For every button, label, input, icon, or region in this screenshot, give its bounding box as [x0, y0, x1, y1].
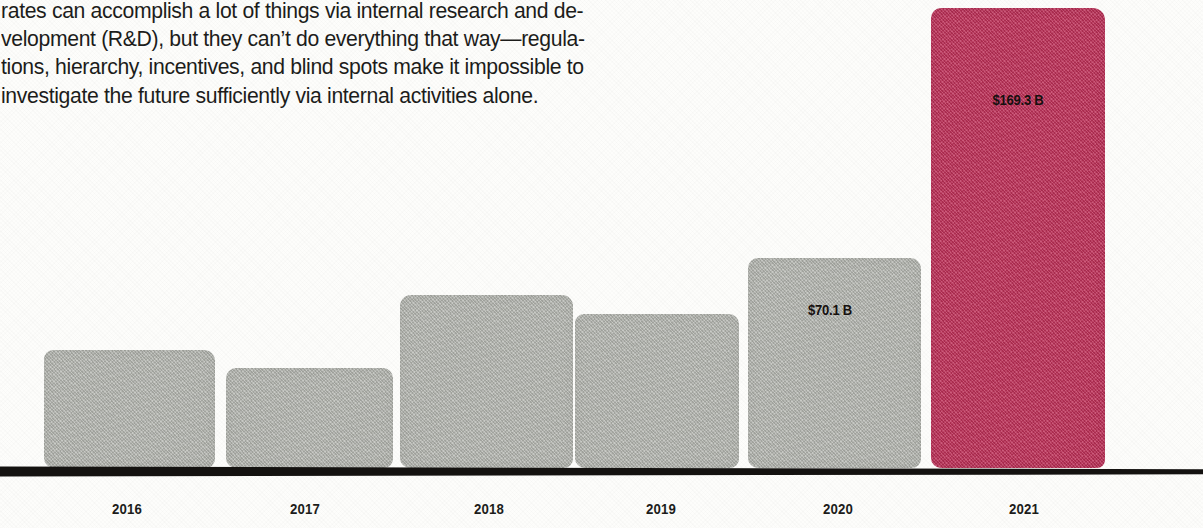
x-axis-tick-labels: 201620172018201920202021 — [0, 500, 1203, 528]
x-axis-rule — [0, 466, 1203, 477]
x-tick-2020: 2020 — [785, 500, 891, 517]
bar-2020 — [748, 258, 921, 468]
bar-2021 — [931, 8, 1105, 468]
bar-2019 — [575, 314, 739, 468]
bar-series: $70.1 B$169.3 B — [0, 0, 1203, 528]
bar-2018 — [400, 295, 573, 468]
x-tick-2016: 2016 — [74, 500, 180, 517]
x-tick-2017: 2017 — [252, 500, 358, 517]
bar-value-label-2021: $169.3 B — [973, 92, 1063, 108]
x-tick-2019: 2019 — [608, 500, 714, 517]
bar-chart: $70.1 B$169.3 B 201620172018201920202021 — [0, 0, 1203, 528]
bar-2017 — [226, 368, 393, 468]
bar-value-label-2020: $70.1 B — [785, 302, 875, 318]
x-tick-2021: 2021 — [971, 500, 1077, 517]
bar-2016 — [44, 350, 215, 468]
x-tick-2018: 2018 — [436, 500, 542, 517]
